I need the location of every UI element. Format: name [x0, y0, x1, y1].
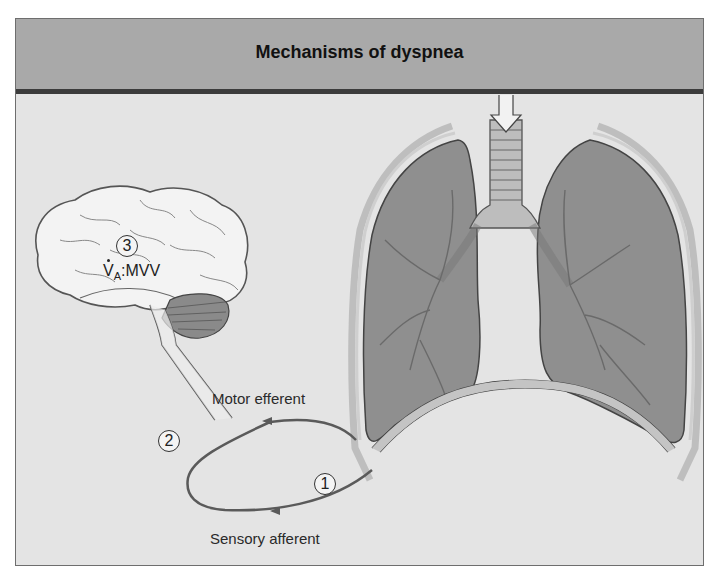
motor-efferent-label: Motor efferent [212, 390, 305, 407]
va-mvv-label: VA:MVV [103, 262, 160, 282]
marker-2: 2 [158, 430, 180, 452]
illustration [0, 0, 713, 572]
brain-illustration [36, 186, 248, 420]
marker-1: 1 [314, 473, 336, 495]
sensory-afferent-label: Sensory afferent [210, 530, 320, 547]
feedback-loop [187, 417, 372, 515]
marker-3: 3 [116, 235, 138, 257]
lungs-illustration [352, 95, 699, 480]
